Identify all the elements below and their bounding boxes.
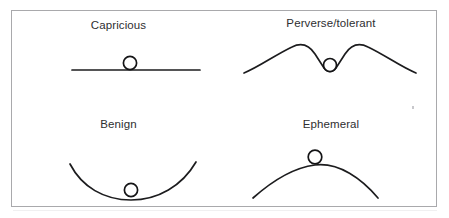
figure-root: Capricious Perverse/tolerant Benign Ephe… [0, 0, 449, 218]
bottom-edge-shadow [13, 210, 437, 211]
circle-ball-icon [308, 150, 322, 164]
circle-ball-icon [324, 59, 337, 72]
panel-capricious: Capricious [12, 11, 225, 109]
circle-ball-icon [124, 183, 137, 196]
circle-ball-icon [123, 56, 136, 69]
graphic-capricious [12, 11, 225, 109]
panel-benign: Benign [12, 109, 225, 206]
graphic-perverse [225, 11, 437, 109]
panel-perverse: Perverse/tolerant [225, 11, 437, 109]
graphic-ephemeral [225, 109, 437, 206]
hill-curve-icon [253, 165, 378, 198]
graphic-benign [12, 109, 225, 206]
panel-ephemeral: Ephemeral [225, 109, 437, 206]
scan-artifact-speck [412, 106, 414, 109]
